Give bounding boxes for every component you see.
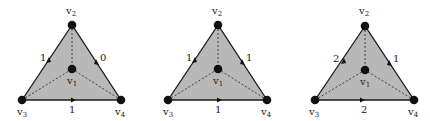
edge-label-left: 1 [40, 52, 46, 63]
vertex-label-v4: v4 [407, 106, 419, 119]
vertex-v2 [214, 21, 223, 30]
edge-label-bottom: 1 [215, 104, 221, 115]
edge-label-right: 1 [246, 52, 252, 63]
edge-label-left: 2 [333, 53, 339, 64]
vertex-label-v3: v3 [162, 106, 173, 119]
vertex-v3 [18, 96, 27, 105]
vertex-v3 [164, 96, 173, 105]
edge-label-bottom: 1 [69, 104, 75, 115]
triangle-diagram-2: v2 v1 v3 v4 1 1 1 [145, 0, 290, 121]
vertex-label-v2: v2 [358, 5, 369, 18]
vertex-v4 [410, 96, 419, 105]
vertex-label-v4: v4 [260, 106, 272, 119]
vertex-v4 [263, 96, 272, 105]
vertex-v1 [361, 66, 370, 75]
vertex-v1 [214, 65, 223, 74]
diagram-canvas: v2 v1 v3 v4 1 1 1 [145, 0, 290, 121]
vertex-v2 [68, 21, 77, 30]
vertex-v4 [117, 96, 126, 105]
diagram-canvas: v2 v1 v3 v4 1 0 1 [0, 0, 145, 121]
edge-label-right: 0 [100, 52, 106, 63]
vertex-label-v4: v4 [114, 106, 126, 119]
edge-label-bottom: 2 [361, 104, 367, 115]
diagram-canvas: v2 v1 v3 v4 2 1 2 [285, 0, 430, 121]
vertex-v1 [68, 65, 77, 74]
vertex-label-v2: v2 [211, 5, 222, 18]
edge-label-right: 1 [393, 53, 399, 64]
triangle-diagram-1: v2 v1 v3 v4 1 0 1 [0, 0, 145, 121]
triangle-diagram-3: v2 v1 v3 v4 2 1 2 [285, 0, 430, 121]
vertex-v3 [311, 96, 320, 105]
vertex-label-v3: v3 [308, 106, 319, 119]
edge-label-left: 1 [186, 52, 192, 63]
vertex-label-v2: v2 [65, 5, 76, 18]
vertex-v2 [361, 22, 370, 31]
vertex-label-v3: v3 [16, 106, 27, 119]
